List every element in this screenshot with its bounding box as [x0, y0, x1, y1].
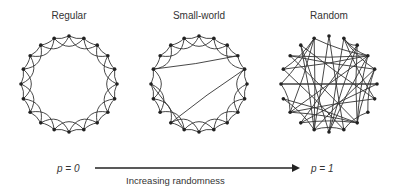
randomness-caption: Increasing randomness — [126, 175, 225, 186]
p-zero-label: p = 0 — [57, 163, 80, 174]
p-one-label: p = 1 — [311, 163, 334, 174]
